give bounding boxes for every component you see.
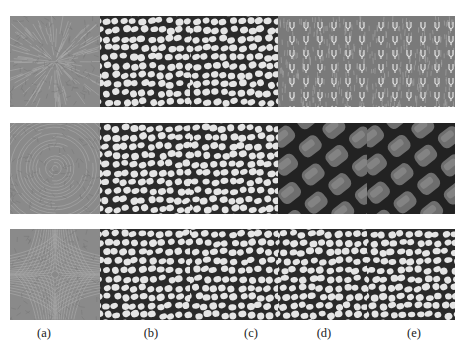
panel-row-3-a (10, 229, 100, 320)
panel-row-2-d (278, 123, 367, 214)
cells-image (100, 229, 190, 320)
label-e: (e) (407, 326, 421, 341)
field-image (10, 229, 100, 320)
panel-row-3-b (100, 229, 190, 320)
label-b: (b) (144, 326, 159, 341)
row-2 (10, 123, 455, 214)
field-image (10, 16, 100, 107)
cells-image (100, 123, 190, 214)
row-1 (10, 16, 455, 107)
panel-row-2-c (190, 123, 278, 214)
cells-image (278, 229, 367, 320)
panel-row-2-a (10, 123, 100, 214)
row-3 (10, 229, 455, 320)
label-a: (a) (37, 326, 51, 341)
cells-image (100, 16, 190, 107)
field-image (10, 123, 100, 214)
panel-row-3-e (367, 229, 455, 320)
panel-row-2-b (100, 123, 190, 214)
cells-image (190, 229, 278, 320)
weave-image (367, 123, 455, 214)
label-d: (d) (317, 326, 332, 341)
cells-image (367, 229, 455, 320)
glyph-texture-image (278, 16, 367, 107)
weave-image (278, 123, 367, 214)
panel-row-3-c (190, 229, 278, 320)
panel-row-3-d (278, 229, 367, 320)
cells-image (190, 123, 278, 214)
panel-row-1-a (10, 16, 100, 107)
panel-row-1-c (190, 16, 278, 107)
label-c: (c) (244, 326, 258, 341)
panel-row-1-b (100, 16, 190, 107)
panel-row-2-e (367, 123, 455, 214)
panel-row-1-d (278, 16, 367, 107)
cells-image (190, 16, 278, 107)
glyph-texture-image (367, 16, 455, 107)
panel-row-1-e (367, 16, 455, 107)
